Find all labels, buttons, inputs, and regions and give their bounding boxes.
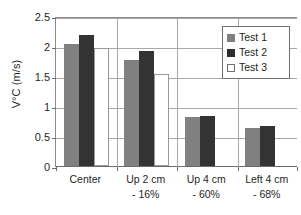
legend-item-label: Test 1 — [239, 32, 267, 43]
y-axis-tick-label: 0.5 — [24, 132, 50, 142]
bar — [124, 60, 139, 166]
bar — [200, 116, 215, 166]
legend-item-label: Test 3 — [239, 62, 267, 73]
x-axis-category-labels: CenterUp 2 cm- 16%Up 4 cm- 60%Left 4 cm-… — [55, 172, 297, 214]
y-axis-tick-mark — [52, 138, 56, 139]
x-axis-category-label: Up 4 cm- 60% — [176, 172, 237, 202]
x-axis-category-sublabel: - 16% — [116, 187, 177, 202]
x-axis-tick-mark — [238, 167, 239, 171]
bar — [245, 128, 260, 166]
x-axis-category-name: Left 4 cm — [245, 173, 288, 185]
legend-item: Test 3 — [227, 60, 285, 75]
bar — [260, 126, 275, 166]
bar — [185, 117, 200, 166]
x-axis-category-name: Center — [69, 173, 101, 185]
bar-chart: V°C (m/s) 00.511.522.5 Test 1Test 2Test … — [0, 0, 301, 215]
chart-legend: Test 1Test 2Test 3 — [222, 26, 290, 79]
x-axis-category-name: Up 4 cm — [187, 173, 226, 185]
y-axis-tick-mark — [52, 78, 56, 79]
x-axis-category-label: Up 2 cm- 16% — [116, 172, 177, 202]
x-axis-tick-mark — [56, 167, 57, 171]
bar — [94, 48, 109, 166]
y-axis-tick-label: 2.5 — [24, 12, 50, 22]
bar — [154, 74, 169, 166]
category-separator — [177, 18, 178, 167]
x-axis-tick-mark — [297, 167, 298, 171]
y-axis-tick-label: 2 — [24, 42, 50, 52]
legend-item: Test 2 — [227, 45, 285, 60]
bar — [79, 35, 94, 166]
legend-item-label: Test 2 — [239, 47, 267, 58]
y-axis-tick-mark — [52, 48, 56, 49]
y-axis-tick-label: 0 — [24, 162, 50, 172]
y-axis-title: V°C (m/s) — [10, 34, 22, 134]
x-axis-tick-mark — [117, 167, 118, 171]
y-axis-tick-labels: 00.511.522.5 — [22, 0, 50, 215]
legend-swatch-icon — [227, 64, 235, 72]
y-axis-tick-mark — [52, 18, 56, 19]
x-axis-category-label: Center — [55, 172, 116, 187]
bar — [139, 51, 154, 166]
x-axis-category-sublabel: - 60% — [176, 187, 237, 202]
legend-swatch-icon — [227, 49, 235, 57]
legend-swatch-icon — [227, 34, 235, 42]
category-separator — [117, 18, 118, 167]
y-axis-tick-mark — [52, 108, 56, 109]
x-axis-tick-mark — [177, 167, 178, 171]
y-axis-tick-label: 1 — [24, 102, 50, 112]
x-axis-category-name: Up 2 cm — [126, 173, 165, 185]
legend-item: Test 1 — [227, 30, 285, 45]
bar — [64, 44, 79, 166]
x-axis-category-sublabel: - 68% — [237, 187, 298, 202]
y-axis-tick-label: 1.5 — [24, 72, 50, 82]
x-axis-category-label: Left 4 cm- 68% — [237, 172, 298, 202]
